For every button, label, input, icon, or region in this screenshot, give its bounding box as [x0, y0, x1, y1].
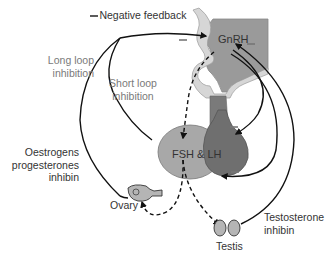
gnrh-label: GnRH — [218, 33, 249, 46]
testis-icon — [214, 220, 240, 236]
ovary-feedback-line — [120, 196, 128, 198]
hypothalamus — [192, 8, 268, 98]
short-loop-inhibition-label: Short loop inhibition — [108, 77, 158, 102]
negative-feedback-legend: — Negative feedback — [86, 9, 186, 22]
ovary-label: Ovary — [110, 199, 138, 212]
long-loop-inhibition-label: Long loop inhibition — [44, 54, 94, 79]
testosterone-inhibin-label: Testosterone inhibin — [264, 211, 324, 236]
oestrogens-progesterones-inhibin-label: Oestrogens progesterones inhibin — [0, 146, 79, 184]
negative-feedback-label: Negative feedback — [99, 9, 186, 21]
testis-label: Testis — [216, 240, 243, 253]
negative-feedback-legend-arrow — [120, 33, 206, 38]
fsh-lh-label: FSH & LH — [172, 148, 222, 161]
